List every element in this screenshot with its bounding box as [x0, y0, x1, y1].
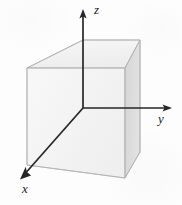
box-front-left-face: [27, 68, 125, 178]
axis-label-z: z: [94, 3, 99, 16]
axis-label-y: y: [158, 112, 164, 125]
figure-canvas: [0, 0, 182, 205]
coordinate-system-figure: z y x: [0, 0, 182, 205]
axis-label-x: x: [22, 182, 28, 195]
